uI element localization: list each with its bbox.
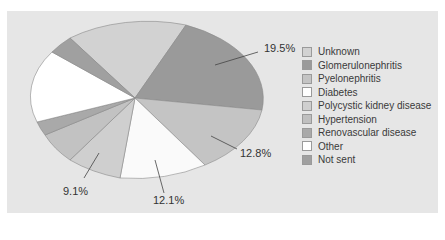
legend-swatch: [302, 47, 312, 57]
legend-label: Hypertension: [318, 114, 377, 125]
legend-swatch: [302, 101, 312, 111]
legend-swatch: [302, 60, 312, 70]
legend-item-glomerulonephritis: Glomerulonephritis: [302, 59, 431, 73]
legend-item-other: Other: [302, 140, 431, 154]
legend-label: Glomerulonephritis: [318, 60, 402, 71]
legend-item-renovascular-disease: Renovascular disease: [302, 126, 431, 140]
legend-swatch: [302, 87, 312, 97]
legend-item-polycystic-kidney-disease: Polycystic kidney disease: [302, 99, 431, 113]
pie-slices: [30, 21, 263, 178]
legend-label: Polycystic kidney disease: [318, 100, 431, 111]
legend-label: Unknown: [318, 46, 360, 57]
legend-item-hypertension: Hypertension: [302, 113, 431, 127]
legend: Unknown Glomerulonephritis Pyelonephriti…: [302, 45, 431, 167]
legend-item-diabetes: Diabetes: [302, 86, 431, 100]
label-pyelonephritis: 12.8%: [240, 147, 271, 159]
legend-item-pyelonephritis: Pyelonephritis: [302, 72, 431, 86]
legend-label: Diabetes: [318, 87, 357, 98]
legend-swatch: [302, 155, 312, 165]
legend-swatch: [302, 141, 312, 151]
label-diabetes: 12.1%: [153, 194, 184, 206]
legend-label: Renovascular disease: [318, 127, 416, 138]
legend-item-not-sent: Not sent: [302, 153, 431, 167]
legend-swatch: [302, 114, 312, 124]
legend-label: Other: [318, 141, 343, 152]
legend-swatch: [302, 74, 312, 84]
legend-label: Not sent: [318, 154, 355, 165]
label-glomerulonephritis: 19.5%: [264, 42, 295, 54]
legend-swatch: [302, 128, 312, 138]
legend-label: Pyelonephritis: [318, 73, 381, 84]
label-polycystic: 9.1%: [63, 185, 88, 197]
legend-item-unknown: Unknown: [302, 45, 431, 59]
